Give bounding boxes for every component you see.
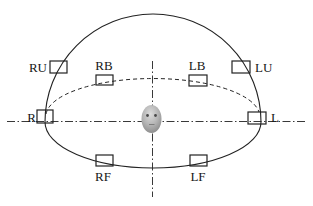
- speaker-L: L: [248, 110, 279, 125]
- dome-outline-curve: [45, 14, 261, 168]
- speaker-R: R: [27, 110, 53, 125]
- hemisphere-curves: [45, 14, 261, 168]
- speaker-label-RU: RU: [29, 60, 48, 75]
- speaker-layout-figure: RURBLBLURLRFLF: [0, 0, 313, 206]
- head-eye-2: [154, 114, 157, 117]
- speaker-label-LF: LF: [190, 169, 205, 184]
- speaker-layout-diagram: RURBLBLURLRFLF: [0, 0, 313, 206]
- speaker-box-LU: [232, 61, 250, 73]
- head-ellipse: [142, 105, 162, 133]
- speaker-label-LB: LB: [189, 58, 206, 73]
- speaker-RU: RU: [29, 60, 67, 75]
- speaker-LU: LU: [232, 60, 273, 75]
- listener-head: [142, 105, 162, 133]
- speaker-box-L: [248, 112, 266, 124]
- speaker-RF: RF: [95, 155, 113, 184]
- speaker-box-RU: [50, 61, 67, 73]
- speaker-label-L: L: [271, 110, 279, 125]
- speaker-RB: RB: [95, 58, 113, 85]
- speaker-box-LB: [189, 75, 207, 86]
- speaker-label-RB: RB: [95, 58, 113, 73]
- speaker-LF: LF: [190, 155, 207, 184]
- speaker-label-RF: RF: [95, 169, 111, 184]
- head-eye-1: [146, 114, 149, 117]
- speaker-label-LU: LU: [255, 60, 273, 75]
- speaker-label-R: R: [27, 110, 36, 125]
